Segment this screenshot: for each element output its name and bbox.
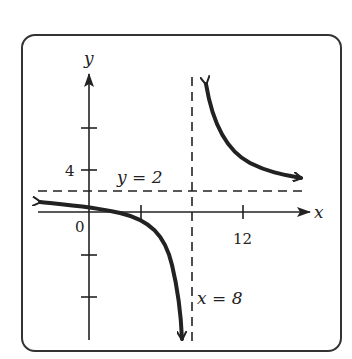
chart-frame <box>22 35 341 351</box>
x-axis-label: x <box>314 202 324 222</box>
y-axis-label: y <box>83 48 94 68</box>
vertical-asymptote-label: x = 8 <box>197 288 243 308</box>
curve-left-branch <box>40 202 182 339</box>
x-tick-label-12: 12 <box>233 230 252 248</box>
curve-right-branch <box>206 84 301 178</box>
chart-canvas: y x 0 4 12 y = 2 x = 8 <box>0 0 352 359</box>
y-tick-label-4: 4 <box>65 162 75 180</box>
origin-label: 0 <box>75 218 85 236</box>
horizontal-asymptote-label: y = 2 <box>116 167 162 187</box>
